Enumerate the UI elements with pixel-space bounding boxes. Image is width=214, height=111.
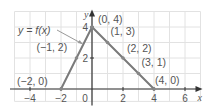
y-axis-label: y (83, 9, 89, 20)
x-axis-label: x (197, 92, 203, 103)
x-tick-label: −2 (55, 93, 67, 104)
y-tick-label: 4 (82, 22, 88, 33)
x-tick-label: 2 (120, 93, 126, 104)
data-point (90, 25, 94, 29)
point-label: (−2, 0) (17, 75, 48, 87)
data-point (75, 56, 79, 60)
point-label: (3, 1) (142, 56, 167, 68)
point-label: (2, 2) (127, 42, 152, 54)
point-label: (1, 3) (111, 25, 136, 37)
data-point (152, 87, 156, 91)
data-point (59, 87, 63, 91)
data-point (137, 72, 141, 76)
x-tick-label: 6 (182, 93, 188, 104)
x-tick-label: 4 (151, 93, 157, 104)
point-label: (−1, 2) (37, 41, 68, 53)
x-tick-label: 0 (82, 93, 88, 104)
function-graph: xy −4−2024624 (−2, 0)(−1, 2)(0, 4)(1, 3)… (0, 0, 214, 111)
data-point (121, 56, 125, 60)
point-label: (0, 4) (98, 13, 123, 25)
y-tick-label: 2 (82, 53, 88, 64)
y-axis-arrow-icon (89, 10, 95, 17)
data-point (106, 41, 110, 45)
x-tick-label: −4 (24, 93, 36, 104)
point-label: (4, 0) (155, 74, 180, 86)
function-label: y = f(x) (17, 24, 50, 36)
